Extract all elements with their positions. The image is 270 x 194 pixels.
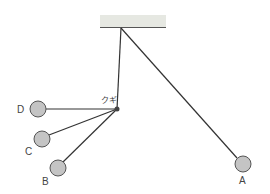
label-D: D [17, 104, 24, 115]
ball-B [50, 160, 66, 176]
ball-D [30, 101, 46, 117]
label-C: C [25, 146, 32, 157]
pendulum-diagram: クギ A B C D [0, 0, 270, 194]
nail-label: クギ [101, 96, 117, 105]
label-A: A [239, 175, 246, 186]
nail [115, 107, 120, 112]
string-to-A [121, 28, 237, 158]
string-to-B [63, 109, 117, 162]
ball-C [34, 131, 50, 147]
ceiling [100, 15, 166, 27]
string-to-nail [117, 28, 121, 109]
string-to-C [49, 109, 117, 135]
label-B: B [42, 176, 49, 187]
ball-A [235, 156, 251, 172]
